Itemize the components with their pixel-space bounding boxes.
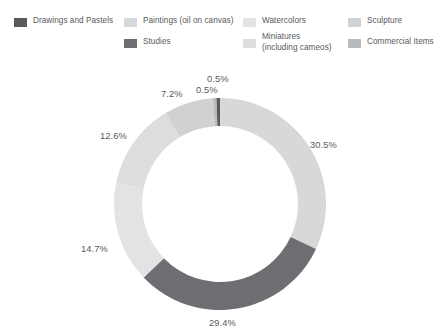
legend-label-sculpture: Sculpture (367, 16, 402, 27)
legend-swatch-commercial-items (348, 39, 361, 48)
legend-label-commercial-items: Commercial Items (367, 37, 434, 48)
legend-label-line1: Miniatures (262, 32, 300, 41)
legend-label-line1: Watercolors (262, 16, 306, 25)
slice-label-top-b: 0.5% (196, 85, 218, 95)
legend-label-paintings-oil-on-canvas: Paintings (oil on canvas) (143, 16, 233, 27)
donut-chart-svg (0, 60, 440, 335)
legend-label-line1: Drawings and Pastels (33, 16, 113, 25)
legend-label-line1: Paintings (oil on canvas) (143, 16, 233, 25)
slice-label-top-a: 0.5% (207, 74, 229, 84)
legend-label-line1: Studies (143, 37, 171, 46)
slice-label-left-upper: 12.6% (100, 131, 127, 141)
legend-item-studies[interactable]: Studies (124, 37, 171, 48)
slice-label-left-lower: 14.7% (81, 244, 108, 254)
legend-item-sculpture[interactable]: Sculpture (348, 16, 402, 27)
legend-label-line1: Commercial Items (367, 37, 434, 46)
legend-swatch-sculpture (348, 18, 361, 27)
donut-slice[interactable] (116, 113, 180, 188)
legend-swatch-drawings-and-pastels (14, 18, 27, 27)
donut-slice[interactable] (220, 98, 326, 249)
legend-item-commercial-items[interactable]: Commercial Items (348, 37, 434, 48)
legend-swatch-watercolors (243, 18, 256, 27)
legend-label-line1: Sculpture (367, 16, 402, 25)
legend-item-watercolors[interactable]: Watercolors (243, 16, 306, 27)
donut-chart: 0.5% 0.5% 7.2% 12.6% 14.7% 30.5% 29.4% (0, 60, 440, 335)
legend-label-watercolors: Watercolors (262, 16, 306, 27)
legend-label-drawings-and-pastels: Drawings and Pastels (33, 16, 113, 27)
slice-label-bottom: 29.4% (209, 318, 236, 328)
slice-label-upper-left: 7.2% (161, 89, 183, 99)
slice-label-right: 30.5% (310, 140, 337, 150)
legend-swatch-paintings-oil-on-canvas (124, 18, 137, 27)
legend-label-miniatures: Miniatures (including cameos) (262, 32, 332, 53)
legend-item-miniatures[interactable]: Miniatures (including cameos) (243, 32, 332, 53)
donut-slice[interactable] (144, 237, 316, 310)
donut-slice-group (114, 98, 326, 310)
donut-slice[interactable] (114, 183, 164, 278)
legend-swatch-miniatures (243, 39, 256, 48)
legend-label-studies: Studies (143, 37, 171, 48)
legend-swatch-studies (124, 39, 137, 48)
chart-legend: Drawings and Pastels Paintings (oil on c… (0, 0, 440, 60)
legend-label-line2: (including cameos) (262, 43, 332, 54)
legend-item-drawings-and-pastels[interactable]: Drawings and Pastels (14, 16, 113, 27)
legend-item-paintings-oil-on-canvas[interactable]: Paintings (oil on canvas) (124, 16, 233, 27)
